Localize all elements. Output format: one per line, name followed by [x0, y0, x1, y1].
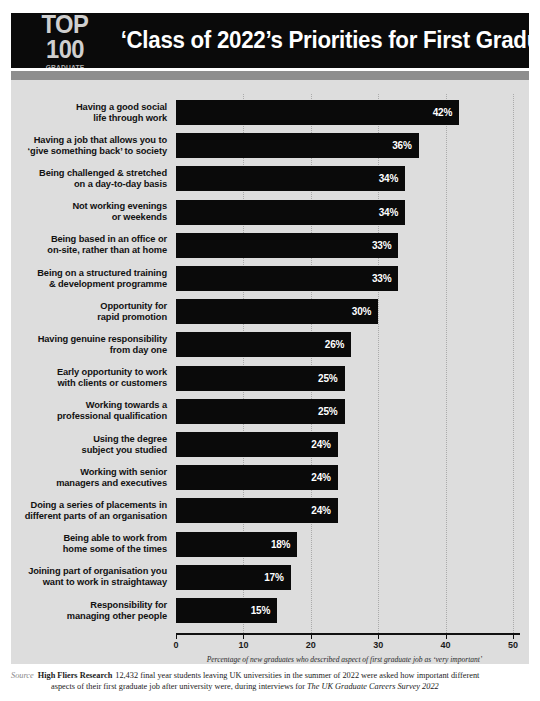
- chart-row: Being challenged & stretched on a day-to…: [176, 165, 513, 192]
- source-line-2: aspects of their first graduate job afte…: [11, 681, 529, 692]
- chart-row: Joining part of organisation you want to…: [176, 564, 513, 591]
- chart-row: Responsibility for managing other people…: [176, 597, 513, 624]
- bar-category-label: Opportunity for rapid promotion: [0, 301, 167, 323]
- bar-value-label: 24%: [311, 505, 337, 516]
- bar: 24%: [176, 432, 338, 457]
- x-axis-tick-label: 40: [441, 640, 451, 650]
- bar: 34%: [176, 166, 405, 191]
- x-axis-tick: [378, 635, 379, 639]
- source-text-line-2: aspects of their first graduate job afte…: [51, 682, 307, 691]
- bar-value-label: 42%: [433, 107, 459, 118]
- page-title: ‘Class of 2022’s Priorities for First Gr…: [109, 27, 529, 54]
- bar-value-label: 24%: [311, 439, 337, 450]
- bar-category-label: Having a good social life through work: [0, 102, 167, 124]
- bar-category-label: Early opportunity to work with clients o…: [0, 367, 167, 389]
- source-label: Source: [11, 671, 34, 680]
- bar-value-label: 30%: [352, 306, 378, 317]
- x-axis-tick: [513, 635, 514, 639]
- bar-category-label: Responsibility for managing other people: [0, 600, 167, 622]
- bar-value-label: 15%: [251, 605, 277, 616]
- bar: 42%: [176, 100, 459, 125]
- bar-value-label: 24%: [311, 472, 337, 483]
- bar-category-label: Not working evenings or weekends: [0, 201, 167, 223]
- source-text-line-1: 12,432 final year students leaving UK un…: [115, 671, 479, 680]
- chart-row: Working towards a professional qualifica…: [176, 398, 513, 425]
- chart-row: Having genuine responsibility from day o…: [176, 331, 513, 358]
- bar: 15%: [176, 598, 277, 623]
- chart-row: Doing a series of placements in differen…: [176, 497, 513, 524]
- x-axis-caption: Percentage of new graduates who describe…: [176, 655, 513, 664]
- logo-graduate-employers-text: GRADUATE EMPLOYERS: [23, 64, 107, 69]
- x-axis-tick-label: 20: [306, 640, 316, 650]
- bar: 24%: [176, 465, 338, 490]
- header-gray-divider: [11, 71, 529, 80]
- bar-category-label: Being able to work from home some of the…: [0, 533, 167, 555]
- gridline-50: [513, 94, 515, 633]
- bar: 34%: [176, 200, 405, 225]
- bar: 24%: [176, 498, 338, 523]
- bar: 36%: [176, 133, 419, 158]
- chart-row: Using the degree subject you studied24%: [176, 431, 513, 458]
- bar-value-label: 25%: [318, 373, 344, 384]
- logo-top100-text: TOP 100: [23, 13, 107, 62]
- bar: 17%: [176, 565, 291, 590]
- chart-row: Being based in an office or on-site, rat…: [176, 232, 513, 259]
- chart-row: Working with senior managers and executi…: [176, 464, 513, 491]
- bar-category-label: Having genuine responsibility from day o…: [0, 334, 167, 356]
- bar-category-label: Working with senior managers and executi…: [0, 467, 167, 489]
- x-axis-tick: [311, 635, 312, 639]
- header-banner: THE TIMES TOP 100 GRADUATE EMPLOYERS ‘Cl…: [11, 13, 529, 68]
- x-axis-tick-label: 50: [508, 640, 518, 650]
- x-axis-tick-label: 30: [373, 640, 383, 650]
- bar-chart-plot-area: Percentage of new graduates who describe…: [176, 94, 513, 649]
- bar-value-label: 26%: [325, 339, 351, 350]
- chart-row: Early opportunity to work with clients o…: [176, 365, 513, 392]
- bar-value-label: 34%: [379, 207, 405, 218]
- times-top100-logo: THE TIMES TOP 100 GRADUATE EMPLOYERS: [11, 13, 109, 68]
- bar-value-label: 17%: [264, 572, 290, 583]
- bar-category-label: Using the degree subject you studied: [0, 434, 167, 456]
- bar-value-label: 25%: [318, 406, 344, 417]
- bar-category-label: Doing a series of placements in differen…: [0, 500, 167, 522]
- bar-category-label: Being based in an office or on-site, rat…: [0, 234, 167, 256]
- x-axis-line: [176, 633, 520, 635]
- bar-category-label: Being on a structured training & develop…: [0, 268, 167, 290]
- bar: 25%: [176, 366, 345, 391]
- bar: 26%: [176, 332, 351, 357]
- source-line-1: SourceHigh Fliers Research12,432 final y…: [11, 670, 529, 681]
- survey-title: The UK Graduate Careers Survey 2022: [307, 682, 439, 691]
- bar-category-label: Being challenged & stretched on a day-to…: [0, 168, 167, 190]
- bar: 33%: [176, 266, 398, 291]
- chart-row: Being able to work from home some of the…: [176, 531, 513, 558]
- x-axis-tick: [243, 635, 244, 639]
- chart-panel: Percentage of new graduates who describe…: [11, 80, 529, 664]
- chart-row: Opportunity for rapid promotion30%: [176, 298, 513, 325]
- bar: 18%: [176, 532, 297, 557]
- infographic-page: THE TIMES TOP 100 GRADUATE EMPLOYERS ‘Cl…: [0, 0, 540, 701]
- x-axis-tick: [176, 635, 177, 639]
- bar: 33%: [176, 233, 398, 258]
- bar-value-label: 34%: [379, 173, 405, 184]
- bar-category-label: Joining part of organisation you want to…: [0, 566, 167, 588]
- source-footnote: SourceHigh Fliers Research12,432 final y…: [11, 670, 529, 692]
- x-axis-tick: [446, 635, 447, 639]
- chart-row: Being on a structured training & develop…: [176, 265, 513, 292]
- bar: 30%: [176, 299, 378, 324]
- bar-category-label: Having a job that allows you to ‘give so…: [0, 135, 167, 157]
- bar-value-label: 33%: [372, 273, 398, 284]
- bar-category-label: Working towards a professional qualifica…: [0, 400, 167, 422]
- bar-value-label: 18%: [271, 539, 297, 550]
- source-organisation: High Fliers Research: [38, 671, 113, 680]
- x-axis-tick-label: 10: [238, 640, 248, 650]
- chart-row: Not working evenings or weekends34%: [176, 199, 513, 226]
- chart-row: Having a job that allows you to ‘give so…: [176, 132, 513, 159]
- x-axis-tick-label: 0: [173, 640, 178, 650]
- bar: 25%: [176, 399, 345, 424]
- bar-value-label: 33%: [372, 240, 398, 251]
- chart-row: Having a good social life through work42…: [176, 99, 513, 126]
- bar-value-label: 36%: [392, 140, 418, 151]
